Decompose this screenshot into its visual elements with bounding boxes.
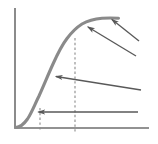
sigmoid-diagram-figure	[0, 0, 158, 144]
annotation-pointer-plateau	[112, 20, 139, 42]
sigmoid-growth-curve	[16, 18, 119, 128]
annotation-pointer-upper-shoulder	[88, 27, 136, 56]
annotation-pointer-midrise	[56, 77, 141, 91]
diagram-canvas	[0, 0, 158, 144]
